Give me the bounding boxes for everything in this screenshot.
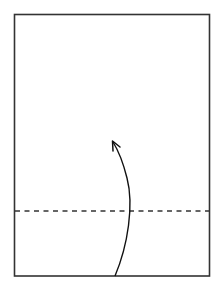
diagram-svg <box>0 0 221 297</box>
fold-diagram <box>0 0 221 297</box>
